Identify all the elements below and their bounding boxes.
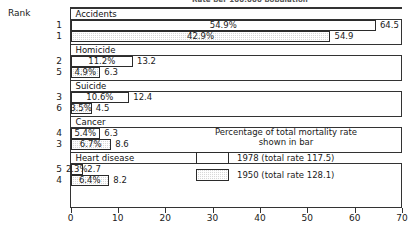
rank-value: 4 — [0, 128, 95, 138]
category-label-homicide: Homicide — [71, 44, 402, 56]
bar-value-label: 64.5 — [380, 20, 399, 31]
category-label-cancer: Cancer — [71, 116, 402, 128]
rank-value: 4 — [0, 175, 95, 185]
legend-title-line2: shown in bar — [196, 137, 376, 147]
bar-value-label: 8.2 — [113, 175, 127, 186]
x-tick-label: 70 — [387, 213, 417, 223]
rank-value: 5 — [0, 164, 95, 174]
bar-value-label: 12.4 — [133, 92, 152, 103]
x-tick-label: 60 — [340, 213, 370, 223]
legend-label-1950: 1950 (total rate 128.1) — [237, 170, 334, 180]
chart-supertitle: Rate per 100,000 population — [150, 0, 350, 2]
x-tick-label: 10 — [103, 213, 133, 223]
x-tick-label: 30 — [198, 213, 228, 223]
legend-item-1950: 1950 (total rate 128.1) — [196, 169, 376, 181]
x-tick-label: 50 — [292, 213, 322, 223]
bar-value-label: 13.2 — [137, 56, 156, 67]
legend-swatch-1978-icon — [196, 152, 229, 164]
rank-value: 3 — [0, 139, 95, 149]
legend-item-1978: 1978 (total rate 117.5) — [196, 152, 376, 164]
category-label-accidents: Accidents — [71, 8, 402, 20]
bar-value-label: 6.3 — [104, 67, 118, 78]
x-tick-label: 20 — [150, 213, 180, 223]
bar-value-label: 6.3 — [104, 128, 118, 139]
bar-value-label: 8.6 — [115, 139, 129, 150]
category-label-suicide: Suicide — [71, 80, 402, 92]
rank-value: 1 — [0, 20, 95, 30]
bar-value-label: 54.9 — [334, 31, 353, 42]
legend-label-1978: 1978 (total rate 117.5) — [237, 153, 334, 163]
legend: Percentage of total mortality rate shown… — [196, 127, 376, 181]
rank-column-header: Rank — [8, 8, 31, 18]
rank-value: 6 — [0, 103, 95, 113]
legend-swatch-1950-icon — [196, 169, 229, 181]
rank-value: 2 — [0, 56, 95, 66]
legend-title: Percentage of total mortality rate shown… — [196, 127, 376, 147]
legend-title-line1: Percentage of total mortality rate — [196, 127, 376, 137]
rank-value: 1 — [0, 31, 95, 41]
rank-value: 5 — [0, 67, 95, 77]
rank-value: 3 — [0, 92, 95, 102]
x-tick-label: 40 — [245, 213, 275, 223]
mortality-bar-chart: Rate per 100,000 population Rank Acciden… — [0, 0, 417, 234]
bar-percent-label: 42.9% — [187, 31, 214, 42]
x-tick-label: 0 — [56, 213, 86, 223]
bar-value-label: 4.5 — [96, 103, 110, 114]
bar-percent-label: 54.9% — [210, 20, 237, 31]
